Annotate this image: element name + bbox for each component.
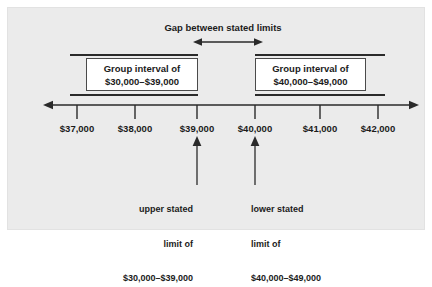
gap-caption: Gap between stated limits <box>7 22 432 33</box>
callout-lower-line3: $40,000–$49,000 <box>251 273 371 285</box>
group-interval-box-right: Group interval of $40,000–$49,000 <box>255 58 366 91</box>
callout-lower-line1: lower stated <box>251 204 371 216</box>
group-interval-right-line1: Group interval of <box>272 62 349 75</box>
callout-upper-line3: $30,000–$39,000 <box>83 273 193 285</box>
callout-arrow-upper-head <box>193 136 202 146</box>
callout-arrows <box>7 131 432 187</box>
figure-panel: Gap between stated limits Group interval… <box>7 7 425 230</box>
group-interval-box-left: Group interval of $30,000–$39,000 <box>86 58 198 91</box>
gap-double-arrow-icon <box>193 35 263 49</box>
group-interval-right-line2: $40,000–$49,000 <box>274 75 348 88</box>
group-interval-left-line1: Group interval of <box>104 62 181 75</box>
callout-note-lower-stated-limit: lower stated limit of $40,000–$49,000 <box>251 181 371 287</box>
callout-note-upper-stated-limit: upper stated limit of $30,000–$39,000 <box>83 181 193 287</box>
callout-upper-line2: limit of <box>83 239 193 251</box>
number-line-axis <box>43 99 419 121</box>
group-bracket-right-top <box>255 54 385 56</box>
callout-upper-line1: upper stated <box>83 204 193 216</box>
axis-arrowhead-right <box>409 101 419 109</box>
callout-lower-line2: limit of <box>251 239 371 251</box>
group-bracket-left-bottom <box>70 94 198 96</box>
callout-arrow-lower-head <box>251 136 260 146</box>
group-interval-left-line2: $30,000–$39,000 <box>105 75 179 88</box>
group-bracket-left-top <box>70 54 198 56</box>
axis-arrowhead-left <box>43 101 53 109</box>
group-bracket-right-bottom <box>255 94 385 96</box>
